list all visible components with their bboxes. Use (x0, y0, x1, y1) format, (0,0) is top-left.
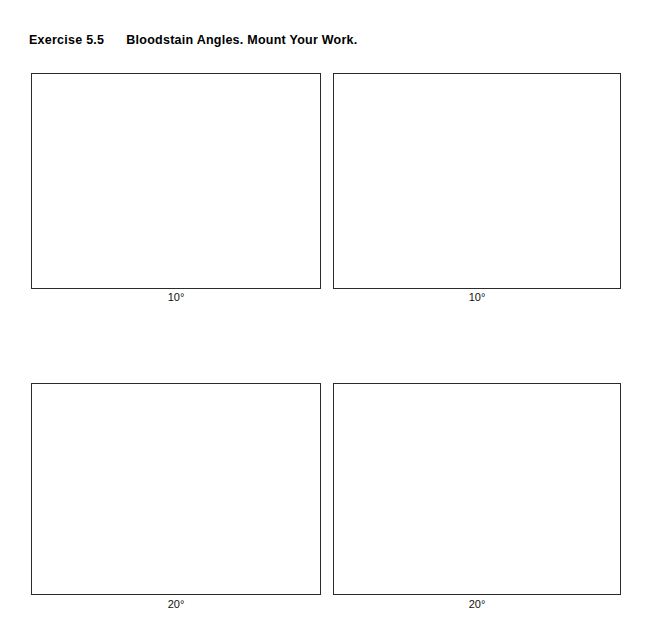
mount-area-bottom-left[interactable] (31, 383, 321, 595)
mount-area-bottom-right[interactable] (333, 383, 621, 595)
answer-box[interactable] (333, 73, 621, 289)
mount-area-top-right[interactable] (333, 73, 621, 289)
exercise-description: Bloodstain Angles. Mount Your Work. (126, 32, 357, 48)
box-label-bottom-right: 20° (333, 597, 621, 611)
answer-box[interactable] (31, 73, 321, 289)
box-label-top-left: 10° (31, 290, 321, 304)
worksheet-page: Exercise 5.5Bloodstain Angles. Mount You… (0, 0, 650, 642)
exercise-number: Exercise 5.5 (29, 32, 104, 48)
box-label-bottom-left: 20° (31, 597, 321, 611)
answer-box[interactable] (31, 383, 321, 595)
mount-area-top-left[interactable] (31, 73, 321, 289)
answer-box[interactable] (333, 383, 621, 595)
box-label-top-right: 10° (333, 290, 621, 304)
page-title: Exercise 5.5Bloodstain Angles. Mount You… (29, 32, 358, 48)
